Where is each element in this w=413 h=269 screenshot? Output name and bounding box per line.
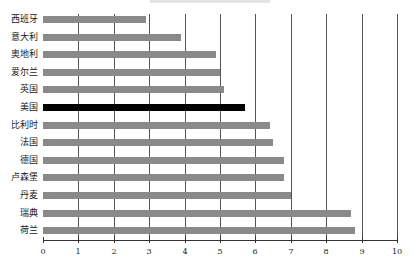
x-tick-label: 6 [245,247,265,256]
category-label: 奥地利 [0,49,38,59]
x-tick-label: 5 [210,247,230,256]
bar [43,104,245,111]
x-tick [397,237,398,243]
category-label: 瑞典 [0,208,38,218]
x-tick [43,237,44,243]
x-tick-label: 4 [175,247,195,256]
bar [43,227,355,234]
bar [43,122,270,129]
x-tick-label: 9 [352,247,372,256]
gridline [291,14,292,240]
x-tick-label: 3 [139,247,159,256]
bar [43,174,284,181]
category-label: 意大利 [0,32,38,42]
gridline [326,14,327,240]
bar [43,139,273,146]
category-label: 荷兰 [0,225,38,235]
x-tick-label: 8 [316,247,336,256]
bar [43,157,284,164]
x-tick-label: 10 [387,247,407,256]
category-label: 比利时 [0,120,38,130]
bar [43,192,291,199]
category-label: 丹麦 [0,190,38,200]
category-label: 英国 [0,84,38,94]
gridline [397,14,398,240]
category-label: 爱尔兰 [0,67,38,77]
x-tick-label: 1 [68,247,88,256]
x-tick [326,237,327,243]
x-tick [114,237,115,243]
category-label: 德国 [0,155,38,165]
bar [43,86,224,93]
x-tick-label: 2 [104,247,124,256]
x-tick [78,237,79,243]
chart-title [150,0,270,3]
bar [43,34,181,41]
category-label: 卢森堡 [0,172,38,182]
x-tick [220,237,221,243]
x-tick [149,237,150,243]
x-tick-label: 7 [281,247,301,256]
bar-chart: 西班牙意大利奥地利爱尔兰英国美国比利时法国德国卢森堡丹麦瑞典荷兰 0123456… [0,0,413,269]
x-tick [291,237,292,243]
bar [43,51,216,58]
category-label: 西班牙 [0,14,38,24]
bar [43,16,146,23]
x-tick-label: 0 [33,247,53,256]
gridline [362,14,363,240]
bar [43,210,351,217]
category-label: 美国 [0,102,38,112]
bar [43,69,220,76]
category-label: 法国 [0,137,38,147]
x-tick [255,237,256,243]
x-tick [362,237,363,243]
x-tick [185,237,186,243]
